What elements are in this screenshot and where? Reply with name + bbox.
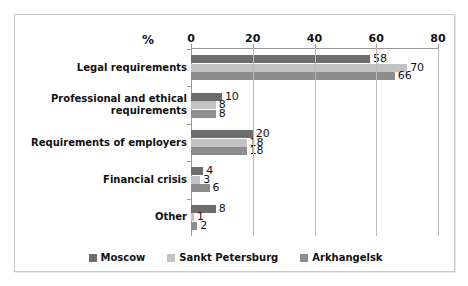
bar-2-0[interactable] <box>191 130 253 138</box>
legend-swatch-icon <box>300 254 308 262</box>
bar-3-0[interactable] <box>191 167 203 175</box>
bar-1-0[interactable] <box>191 93 222 101</box>
bar-value-4-2: 2 <box>200 220 207 231</box>
bar-3-1[interactable] <box>191 176 200 184</box>
bar-2-2[interactable] <box>191 147 247 155</box>
bar-0-0[interactable] <box>191 55 370 63</box>
bar-3-2[interactable] <box>191 184 210 192</box>
category-label-1: Professional and ethical requirements <box>27 93 187 117</box>
category-tick <box>187 199 192 200</box>
legend-item-2[interactable]: Arkhangelsk <box>300 252 382 263</box>
bar-value-2-2: 18 <box>250 145 264 156</box>
bar-1-1[interactable] <box>191 101 216 109</box>
gridline-80 <box>438 48 439 236</box>
bar-value-4-0: 8 <box>219 203 226 214</box>
gridline-20 <box>253 48 254 236</box>
chart-frame: % 020406080 Legal requirementsProfession… <box>14 14 455 272</box>
bar-value-3-1: 3 <box>203 174 210 185</box>
gridline-40 <box>315 48 316 236</box>
category-label-0: Legal requirements <box>27 62 187 74</box>
bar-0-2[interactable] <box>191 72 395 80</box>
axis-unit-label: % <box>142 33 154 47</box>
bar-value-0-2: 66 <box>398 70 412 81</box>
bar-value-1-0: 10 <box>225 91 239 102</box>
legend-item-0[interactable]: Moscow <box>89 252 146 263</box>
legend-item-1[interactable]: Sankt Petersburg <box>167 252 278 263</box>
legend-label: Moscow <box>101 252 146 263</box>
x-tick-mark-0 <box>191 44 192 52</box>
chart-legend: MoscowSankt PetersburgArkhangelsk <box>15 252 456 263</box>
category-label-4: Other <box>27 211 187 223</box>
category-tick <box>187 86 192 87</box>
bar-value-1-2: 8 <box>219 108 226 119</box>
legend-swatch-icon <box>167 254 175 262</box>
bar-value-3-2: 6 <box>213 182 220 193</box>
bar-4-2[interactable] <box>191 222 197 230</box>
bar-4-1[interactable] <box>191 213 194 221</box>
category-tick <box>187 161 192 162</box>
category-tick <box>187 124 192 125</box>
legend-label: Sankt Petersburg <box>179 252 278 263</box>
bar-value-0-0: 58 <box>373 53 387 64</box>
bar-1-2[interactable] <box>191 110 216 118</box>
category-tick <box>187 49 192 50</box>
category-label-2: Requirements of employers <box>27 137 187 149</box>
bar-2-1[interactable] <box>191 139 247 147</box>
legend-label: Arkhangelsk <box>312 252 382 263</box>
category-label-3: Financial crisis <box>27 174 187 186</box>
category-labels: Legal requirementsProfessional and ethic… <box>23 49 187 236</box>
bar-0-1[interactable] <box>191 64 407 72</box>
legend-swatch-icon <box>89 254 97 262</box>
bar-value-0-1: 70 <box>410 62 424 73</box>
gridline-60 <box>376 48 377 236</box>
